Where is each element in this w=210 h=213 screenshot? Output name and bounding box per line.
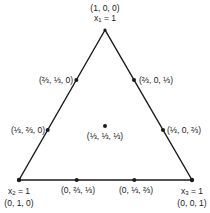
centroid-label: (⅓, ⅓, ⅓)	[87, 131, 123, 141]
vertex-dot-top	[103, 28, 106, 31]
point-left-upper	[74, 78, 78, 82]
vertex-bottom-right-coord: (0, 0, 1)	[177, 198, 206, 208]
point-right-lower	[161, 128, 165, 132]
point-bottom-left-label: (0, ⅔, ⅓)	[61, 185, 95, 195]
point-bottom-left	[75, 178, 79, 182]
vertex-bottom-left-var: x2 = 1	[8, 186, 30, 198]
point-right-upper-label: (⅔, 0, ⅓)	[139, 75, 173, 85]
point-bottom-right	[132, 178, 136, 182]
vertex-top-coord: (1, 0, 0)	[90, 3, 119, 13]
simplex-diagram	[0, 0, 210, 213]
centroid-dot	[103, 124, 107, 128]
vertex-dot-bottom-right	[190, 178, 194, 182]
simplex-triangle	[19, 30, 192, 180]
point-right-lower-label: (⅓, 0, ⅔)	[167, 125, 201, 135]
vertex-top-var: x1 = 1	[94, 13, 116, 25]
point-left-lower	[46, 128, 50, 132]
point-left-lower-label: (⅓, ⅔, 0)	[11, 125, 45, 135]
point-bottom-right-label: (0, ⅓, ⅔)	[119, 185, 153, 195]
point-left-upper-label: (⅔, ⅓, 0)	[39, 75, 73, 85]
vertex-dot-bottom-left	[17, 178, 21, 182]
vertex-bottom-right-var: x3 = 1	[181, 186, 203, 198]
point-right-upper	[132, 78, 136, 82]
vertex-bottom-left-coord: (0, 1, 0)	[4, 198, 33, 208]
